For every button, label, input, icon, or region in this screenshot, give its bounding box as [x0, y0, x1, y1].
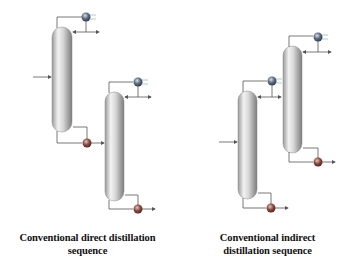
process-flow-diagram: [0, 0, 350, 265]
column-2: [283, 46, 302, 153]
boilup-line: [303, 148, 318, 158]
indirect-sequence-caption: Conventional indirect distillation seque…: [180, 231, 350, 257]
caption-line: distillation sequence: [180, 244, 350, 257]
bottoms-line: [57, 131, 82, 143]
overhead-line: [243, 81, 267, 92]
condenser-icon: [82, 13, 91, 22]
condenser-icon: [314, 33, 323, 42]
condenser-icon: [268, 77, 277, 86]
column-1: [238, 91, 257, 199]
condenser-icon: [134, 78, 143, 87]
boilup-line: [73, 127, 87, 139]
caption-line: sequence: [0, 244, 175, 257]
indirect-sequence: [219, 33, 335, 213]
bottoms-line: [109, 200, 133, 209]
bottoms-line: [289, 152, 313, 162]
overhead-line: [57, 17, 82, 28]
caption-line: Conventional indirect: [180, 231, 350, 244]
reboiler-icon: [314, 158, 323, 167]
reboiler-icon: [134, 205, 143, 214]
overhead-line: [109, 82, 133, 93]
overhead-line: [289, 36, 313, 47]
reboiler-icon: [267, 204, 276, 213]
boilup-line: [125, 195, 138, 205]
bottoms-line: [243, 198, 266, 208]
boilup-line: [258, 193, 271, 204]
caption-line: Conventional direct distillation: [0, 231, 175, 244]
direct-sequence-caption: Conventional direct distillation sequenc…: [0, 231, 175, 257]
column-2: [105, 92, 124, 201]
reboiler-icon: [83, 139, 92, 148]
column-1: [52, 27, 72, 132]
direct-sequence: [33, 13, 155, 214]
